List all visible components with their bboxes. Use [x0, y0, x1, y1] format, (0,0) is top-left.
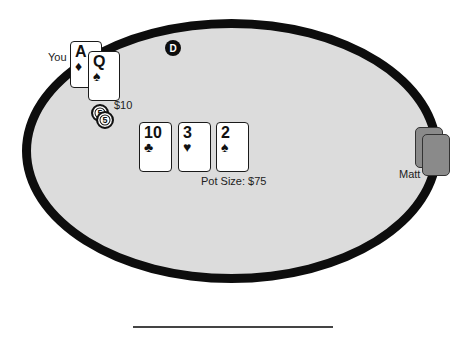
board-card-2: 3 ♥ [178, 122, 211, 172]
spade-suit-icon: ♠ [93, 69, 100, 83]
board-card-1: 10 ♣ [139, 122, 172, 172]
pot-size: Pot Size: $75 [201, 175, 266, 187]
club-suit-icon: ♣ [144, 140, 153, 154]
heart-suit-icon: ♥ [183, 140, 191, 154]
player-name-opponent: Matt [399, 168, 420, 180]
divider-line [133, 326, 333, 328]
board-card-3: 2 ♠ [216, 122, 249, 172]
spade-suit-icon: ♠ [221, 140, 228, 154]
dealer-button: D [165, 40, 181, 56]
player-bet-amount: $10 [114, 99, 132, 111]
diamond-suit-icon: ♦ [75, 59, 82, 73]
chip-icon: 5 [96, 111, 114, 129]
opponent-card-back-2 [422, 134, 450, 176]
hole-card-2[interactable]: Q ♠ [88, 51, 120, 101]
player-name-you: You [48, 51, 67, 63]
